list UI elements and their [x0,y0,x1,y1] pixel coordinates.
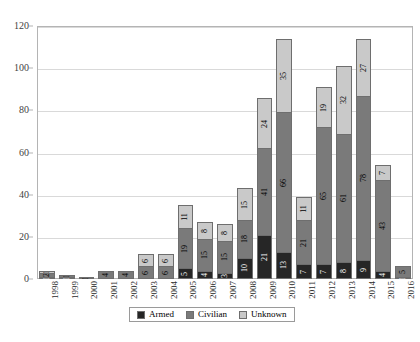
bar-group[interactable]: 151810 [237,188,253,279]
bar-value-label: 18 [241,235,249,243]
x-axis-tick-label: 2006 [209,281,218,299]
bar-value-label: 27 [360,64,368,72]
x-axis-tick-label: 2014 [368,281,377,299]
y-axis-tick-mark [29,236,33,237]
legend-item-unknown[interactable]: Unknown [239,310,287,319]
bar-value-label: 7 [320,270,328,274]
bar-segment-civilian[interactable]: 61 [336,134,352,263]
bar-value-label: 7 [379,171,387,175]
bar-segment-armed[interactable]: 13 [276,252,292,279]
bar-value-label: 24 [261,120,269,128]
bar-segment-civilian[interactable]: 1 [79,277,95,279]
bar-segment-unknown[interactable]: 8 [197,222,213,239]
bar-segment-civilian[interactable]: 15 [217,241,233,273]
bar-value-label: 1 [63,277,71,279]
bar-segment-unknown[interactable]: 8 [217,224,233,241]
bar-segment-unknown[interactable]: 19 [316,87,332,127]
bar-segment-armed[interactable]: 4 [375,271,391,279]
bar-segment-armed[interactable]: 1 [39,277,55,279]
x-axis-tick-label: 2010 [288,281,297,299]
bar-segment-civilian[interactable]: 41 [257,148,273,234]
y-axis-tick-mark [29,110,33,111]
legend-swatch-icon [239,311,247,319]
bar-segment-civilian[interactable]: 5 [395,266,411,277]
bar-group[interactable]: 32618 [336,66,352,279]
bar-segment-armed[interactable]: 9 [356,260,372,279]
y-axis-tick-mark [29,26,33,27]
x-axis-tick-label: 2013 [348,281,357,299]
bar-segment-armed[interactable]: 5 [178,268,194,279]
y-axis-tick-mark [29,68,33,69]
bar-segment-civilian[interactable]: 4 [98,271,114,279]
bar-group[interactable]: 8154 [197,222,213,279]
bar-segment-unknown[interactable]: 35 [276,39,292,113]
bar-group[interactable]: 244121 [257,98,273,279]
bar-group[interactable]: 11 [59,275,75,279]
legend-item-armed[interactable]: Armed [137,310,174,319]
bar-segment-unknown[interactable]: 15 [237,188,253,220]
bar-value-label: 19 [320,104,328,112]
bar-segment-armed[interactable]: 21 [257,235,273,279]
bar-group[interactable]: 66 [158,254,174,279]
bar-value-label: 15 [221,253,229,261]
bar-segment-civilian[interactable]: 66 [276,112,292,251]
bar-group[interactable]: 8153 [217,224,233,279]
bars-layer: 1211114466661119581548153151810244121356… [37,26,413,279]
bar-group[interactable]: 4 [118,271,134,279]
y-axis-tick-label: 40 [19,190,29,200]
bar-segment-unknown[interactable]: 11 [296,197,312,220]
x-axis-tick-label: 2016 [407,281,416,299]
bar-segment-unknown[interactable]: 32 [336,66,352,133]
bar-segment-armed[interactable]: 4 [197,271,213,279]
bar-group[interactable]: 121 [39,271,55,279]
x-axis-tick-label: 2004 [170,281,179,299]
bar-segment-civilian[interactable]: 43 [375,180,391,271]
bar-value-label: 4 [102,273,110,277]
bar-segment-civilian[interactable]: 18 [237,220,253,258]
bar-segment-unknown[interactable]: 6 [138,254,154,267]
bar-segment-civilian[interactable]: 6 [158,266,174,279]
y-axis-tick-label: 120 [14,21,29,31]
bar-group[interactable]: 51 [395,266,411,279]
bar-segment-armed[interactable]: 1 [59,277,75,279]
bar-segment-civilian[interactable]: 6 [138,266,154,279]
bar-group[interactable]: 19657 [316,87,332,279]
legend-item-civilian[interactable]: Civilian [186,310,227,319]
bar-value-label: 3 [221,274,229,278]
bar-segment-unknown[interactable]: 24 [257,98,273,149]
legend-label: Civilian [198,310,227,319]
bar-group[interactable]: 1 [79,277,95,279]
x-axis-tick-label: 2001 [110,281,119,299]
bar-group[interactable]: 4 [98,271,114,279]
bar-segment-unknown[interactable]: 11 [178,205,194,228]
bar-group[interactable]: 66 [138,254,154,279]
bar-group[interactable]: 11195 [178,205,194,279]
bar-group[interactable]: 11217 [296,197,312,279]
bar-segment-civilian[interactable]: 78 [356,96,372,260]
bar-value-label: 65 [320,192,328,200]
bar-segment-civilian[interactable]: 4 [118,271,134,279]
bar-segment-armed[interactable]: 7 [316,264,332,279]
bar-segment-armed[interactable]: 10 [237,258,253,279]
bar-segment-armed[interactable]: 1 [395,277,411,279]
bar-segment-civilian[interactable]: 19 [178,228,194,268]
bar-segment-unknown[interactable]: 6 [158,254,174,267]
bar-segment-civilian[interactable]: 15 [197,239,213,271]
bar-value-label: 5 [399,270,407,274]
x-axis-tick-label: 2011 [308,281,317,299]
bar-group[interactable]: 27789 [356,39,372,279]
bar-segment-civilian[interactable]: 21 [296,220,312,264]
bar-segment-armed[interactable]: 3 [217,273,233,279]
bar-group[interactable]: 7434 [375,165,391,279]
bar-segment-civilian[interactable]: 65 [316,127,332,264]
bar-value-label: 15 [241,201,249,209]
bar-segment-armed[interactable]: 7 [296,264,312,279]
bar-group[interactable]: 356613 [276,39,292,279]
bar-value-label: 4 [379,273,387,277]
bar-value-label: 6 [142,271,150,275]
bar-segment-armed[interactable]: 8 [336,262,352,279]
bar-segment-unknown[interactable]: 7 [375,165,391,180]
bar-value-label: 11 [181,213,189,221]
bar-value-label: 13 [280,261,288,269]
bar-segment-unknown[interactable]: 27 [356,39,372,96]
